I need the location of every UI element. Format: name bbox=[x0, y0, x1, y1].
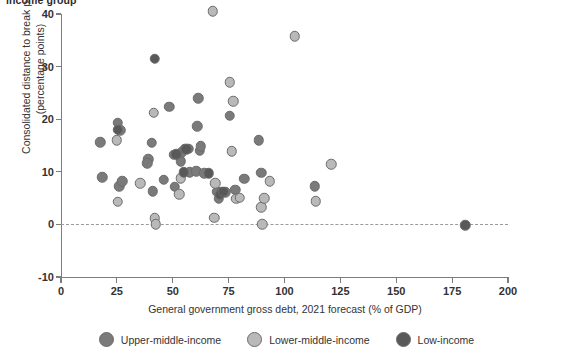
y-axis-title-line-1: Consolidated distance to break point bbox=[19, 0, 33, 184]
scatter-point[interactable] bbox=[203, 168, 214, 179]
scatter-point[interactable] bbox=[150, 53, 161, 64]
scatter-point[interactable] bbox=[256, 168, 267, 179]
y-tick-label: 30 bbox=[14, 61, 54, 73]
x-tick-label: 75 bbox=[209, 285, 249, 297]
scatter-point[interactable] bbox=[209, 212, 220, 223]
y-tick-label: -10 bbox=[14, 271, 54, 283]
scatter-point[interactable] bbox=[149, 108, 160, 119]
x-tick-label: 150 bbox=[376, 285, 416, 297]
legend-marker-icon bbox=[99, 332, 114, 347]
scatter-point[interactable] bbox=[95, 137, 106, 148]
scatter-point[interactable] bbox=[164, 101, 175, 112]
scatter-point[interactable] bbox=[224, 110, 235, 121]
scatter-point[interactable] bbox=[181, 144, 192, 155]
legend-item-upper[interactable]: Upper-middle-income bbox=[99, 332, 221, 347]
legend-item-label: Low-income bbox=[418, 334, 475, 346]
x-tick-mark bbox=[507, 278, 508, 283]
x-tick-mark bbox=[116, 278, 117, 283]
x-tick-mark bbox=[60, 278, 61, 283]
scatter-point[interactable] bbox=[135, 178, 146, 189]
x-tick-label: 125 bbox=[320, 285, 360, 297]
scatter-point[interactable] bbox=[218, 187, 229, 198]
scatter-point[interactable] bbox=[171, 149, 182, 160]
scatter-point[interactable] bbox=[112, 135, 123, 146]
scatter-point[interactable] bbox=[309, 181, 320, 192]
scatter-point[interactable] bbox=[208, 6, 219, 17]
scatter-point[interactable] bbox=[151, 219, 162, 230]
x-tick-mark bbox=[228, 278, 229, 283]
scatter-point[interactable] bbox=[147, 186, 158, 197]
x-tick-label: 50 bbox=[153, 285, 193, 297]
chart-legend: Upper-middle-incomeLower-middle-incomeLo… bbox=[0, 332, 573, 347]
x-tick-label: 100 bbox=[265, 285, 305, 297]
x-axis-title: General government gross debt, 2021 fore… bbox=[61, 303, 509, 315]
scatter-point[interactable] bbox=[311, 196, 322, 207]
x-tick-mark bbox=[284, 278, 285, 283]
scatter-point[interactable] bbox=[289, 31, 300, 42]
legend-marker-icon bbox=[396, 332, 411, 347]
x-tick-mark bbox=[172, 278, 173, 283]
y-tick-label: 40 bbox=[14, 8, 54, 20]
scatter-point[interactable] bbox=[235, 192, 246, 203]
legend-item-label: Lower-middle-income bbox=[269, 334, 369, 346]
scatter-point[interactable] bbox=[142, 158, 153, 169]
y-axis-title: Consolidated distance to break point (pe… bbox=[19, 0, 47, 184]
x-tick-label: 0 bbox=[41, 285, 81, 297]
scatter-point[interactable] bbox=[174, 189, 185, 200]
scatter-point[interactable] bbox=[193, 93, 204, 104]
scatter-point[interactable] bbox=[146, 138, 157, 149]
scatter-point[interactable] bbox=[265, 176, 276, 187]
scatter-point[interactable] bbox=[326, 159, 337, 170]
y-tick-label: 20 bbox=[14, 113, 54, 125]
scatter-point[interactable] bbox=[97, 172, 108, 183]
scatter-point[interactable] bbox=[257, 219, 268, 230]
scatter-point[interactable] bbox=[239, 173, 250, 184]
scatter-point[interactable] bbox=[460, 220, 471, 231]
x-tick-mark bbox=[396, 278, 397, 283]
scatter-point[interactable] bbox=[228, 96, 239, 107]
x-tick-label: 175 bbox=[432, 285, 472, 297]
x-tick-mark bbox=[452, 278, 453, 283]
legend-item-lower[interactable]: Lower-middle-income bbox=[247, 332, 369, 347]
scatter-point[interactable] bbox=[113, 124, 124, 135]
scatter-point[interactable] bbox=[192, 121, 203, 132]
y-axis-title-line-2: (percentage points) bbox=[33, 0, 47, 184]
scatter-point[interactable] bbox=[224, 77, 235, 88]
y-tick-label: 10 bbox=[14, 166, 54, 178]
legend-item-low[interactable]: Low-income bbox=[396, 332, 475, 347]
scatter-plot-area bbox=[61, 14, 508, 277]
scatter-point[interactable] bbox=[195, 141, 206, 152]
scatter-point[interactable] bbox=[159, 174, 170, 185]
scatter-point[interactable] bbox=[256, 202, 267, 213]
scatter-point[interactable] bbox=[117, 176, 128, 187]
y-tick-label: 0 bbox=[14, 218, 54, 230]
scatter-point[interactable] bbox=[254, 135, 265, 146]
x-tick-label: 25 bbox=[97, 285, 137, 297]
legend-item-label: Upper-middle-income bbox=[121, 334, 221, 346]
legend-marker-icon bbox=[247, 332, 262, 347]
x-tick-mark bbox=[340, 278, 341, 283]
scatter-point[interactable] bbox=[179, 167, 190, 178]
figure-root: income group Consolidated distance to br… bbox=[0, 0, 573, 362]
x-tick-label: 200 bbox=[488, 285, 528, 297]
scatter-point[interactable] bbox=[259, 193, 270, 204]
scatter-point[interactable] bbox=[113, 197, 124, 208]
scatter-point[interactable] bbox=[227, 146, 238, 157]
